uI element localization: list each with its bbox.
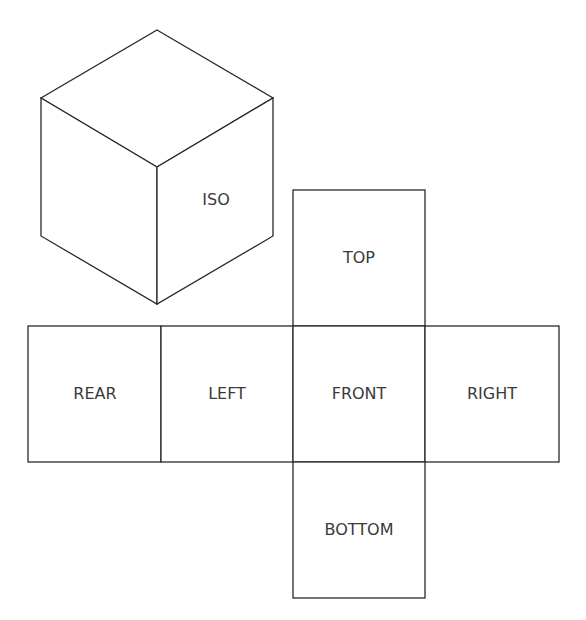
face-label-left: LEFT bbox=[208, 384, 246, 403]
face-label-bottom: BOTTOM bbox=[325, 520, 394, 539]
face-label-front: FRONT bbox=[332, 384, 387, 403]
face-label-rear: REAR bbox=[73, 384, 116, 403]
face-label-top: TOP bbox=[342, 248, 375, 267]
iso-label: ISO bbox=[202, 190, 229, 209]
cube-diagram: ISO TOP REAR LEFT FRONT RIGHT BOTTOM bbox=[0, 0, 586, 620]
iso-cube: ISO bbox=[41, 30, 273, 304]
face-label-right: RIGHT bbox=[467, 384, 517, 403]
